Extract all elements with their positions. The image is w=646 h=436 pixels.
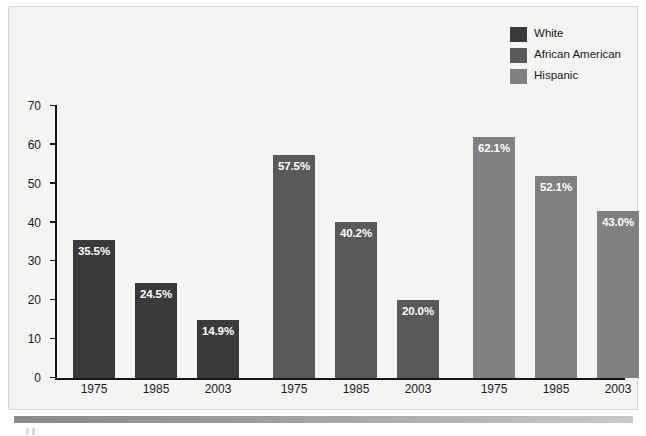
chart-page: WhiteAfrican AmericanHispanic 0102030405… bbox=[0, 0, 646, 436]
x-axis-label: 1975 bbox=[73, 383, 115, 395]
chart-legend: WhiteAfrican AmericanHispanic bbox=[510, 25, 621, 85]
footer-cropped-text-mark bbox=[26, 428, 40, 435]
bar[interactable]: 62.1% bbox=[473, 137, 515, 378]
bar-value-label: 62.1% bbox=[473, 143, 515, 155]
legend-item[interactable]: Hispanic bbox=[510, 67, 621, 85]
bar-value-label: 57.5% bbox=[273, 161, 315, 173]
footer-gradient-rule bbox=[14, 416, 633, 423]
bar[interactable]: 40.2% bbox=[335, 222, 377, 378]
legend-item-label: African American bbox=[534, 49, 621, 61]
x-axis-label: 1985 bbox=[335, 383, 377, 395]
bar-value-label: 14.9% bbox=[197, 326, 239, 338]
x-axis-label: 2003 bbox=[597, 383, 639, 395]
legend-swatch-icon bbox=[510, 48, 527, 63]
bar-value-label: 43.0% bbox=[597, 217, 639, 229]
legend-swatch-icon bbox=[510, 27, 527, 42]
legend-item-label: White bbox=[534, 28, 563, 40]
x-axis-label: 1975 bbox=[473, 383, 515, 395]
x-axis-label: 2003 bbox=[397, 383, 439, 395]
y-axis-tick-label: 0 bbox=[34, 372, 41, 384]
legend-item[interactable]: White bbox=[510, 25, 621, 43]
x-axis-labels: 197519852003197519852003197519852003 bbox=[55, 383, 625, 403]
bar[interactable]: 43.0% bbox=[597, 211, 639, 378]
bar[interactable]: 52.1% bbox=[535, 176, 577, 378]
bar-value-label: 52.1% bbox=[535, 182, 577, 194]
bar-value-label: 24.5% bbox=[135, 289, 177, 301]
bar-value-label: 35.5% bbox=[73, 246, 115, 258]
bar[interactable]: 20.0% bbox=[397, 300, 439, 378]
legend-item[interactable]: African American bbox=[510, 46, 621, 64]
plot-area: 010203040506070 35.5%24.5%14.9%57.5%40.2… bbox=[55, 106, 625, 380]
chart-figure-panel: WhiteAfrican AmericanHispanic 0102030405… bbox=[8, 6, 638, 410]
bar[interactable]: 14.9% bbox=[197, 320, 239, 378]
legend-swatch-icon bbox=[510, 69, 527, 84]
y-axis-tick-label: 20 bbox=[28, 294, 41, 306]
y-axis-tick-label: 70 bbox=[28, 100, 41, 112]
bar-value-label: 40.2% bbox=[335, 228, 377, 240]
y-axis-tick-label: 30 bbox=[28, 255, 41, 267]
bar-value-label: 20.0% bbox=[397, 306, 439, 318]
x-axis-label: 1985 bbox=[135, 383, 177, 395]
y-axis-tick-label: 60 bbox=[28, 139, 41, 151]
legend-item-label: Hispanic bbox=[534, 70, 578, 82]
x-axis-label: 1975 bbox=[273, 383, 315, 395]
bars-layer: 35.5%24.5%14.9%57.5%40.2%20.0%62.1%52.1%… bbox=[55, 106, 625, 380]
bar[interactable]: 57.5% bbox=[273, 155, 315, 378]
y-axis-tick-label: 50 bbox=[28, 178, 41, 190]
x-axis-label: 2003 bbox=[197, 383, 239, 395]
x-axis-label: 1985 bbox=[535, 383, 577, 395]
bar[interactable]: 24.5% bbox=[135, 283, 177, 378]
y-axis-tick-label: 40 bbox=[28, 217, 41, 229]
bar[interactable]: 35.5% bbox=[73, 240, 115, 378]
y-axis-tick-label: 10 bbox=[28, 333, 41, 345]
